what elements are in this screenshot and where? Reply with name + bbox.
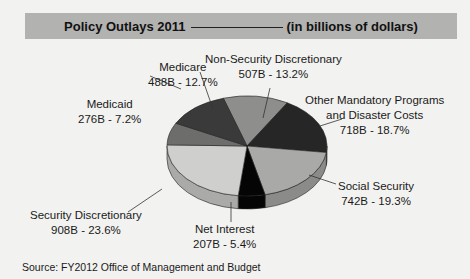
label-other-value: 718B - 18.7%	[305, 123, 444, 138]
label-netint-name: Net Interest	[193, 222, 256, 237]
label-netint: Net Interest 207B - 5.4%	[193, 222, 256, 252]
pie-side-net-interest	[238, 195, 265, 209]
label-nonsec-value: 507B - 13.2%	[205, 67, 342, 82]
label-secdisc-value: 908B - 23.6%	[30, 223, 142, 238]
label-medicaid-name: Medicaid	[78, 97, 141, 112]
pie-top	[167, 96, 327, 196]
label-medicaid-value: 276B - 7.2%	[78, 112, 141, 127]
label-social-name: Social Security	[338, 179, 414, 194]
label-social: Social Security 742B - 19.3%	[338, 179, 414, 209]
label-secdisc-name: Security Discretionary	[30, 208, 142, 223]
label-netint-value: 207B - 5.4%	[193, 237, 256, 252]
label-other: Other Mandatory Programs and Disaster Co…	[305, 93, 444, 138]
source-note: Source: FY2012 Office of Management and …	[22, 261, 261, 273]
label-other-line2: and Disaster Costs	[305, 108, 444, 123]
label-medicaid: Medicaid 276B - 7.2%	[78, 97, 141, 127]
label-nonsec-name: Non-Security Discretionary	[205, 52, 342, 67]
label-other-line1: Other Mandatory Programs	[305, 93, 444, 108]
label-nonsec: Non-Security Discretionary 507B - 13.2%	[205, 52, 342, 82]
label-social-value: 742B - 19.3%	[338, 194, 414, 209]
label-secdisc: Security Discretionary 908B - 23.6%	[30, 208, 142, 238]
pie-slice-security-discretionary	[167, 145, 247, 196]
